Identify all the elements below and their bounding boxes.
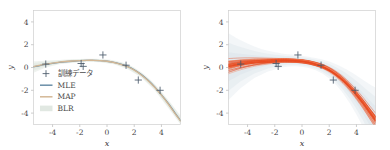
legend-band-swatch-icon — [40, 106, 53, 112]
left-axes: -4-2024420-2-4xy訓練データMLEMAPBLR — [0, 0, 195, 150]
y-tick-label: 2 — [24, 40, 29, 49]
legend-label: MAP — [58, 92, 76, 101]
right-plot-panel: -4-2024420-2-4xy — [195, 0, 390, 150]
y-tick-label: -2 — [21, 86, 29, 95]
y-tick-label: 4 — [219, 18, 224, 27]
y-tick-label: -2 — [216, 86, 224, 95]
y-tick-label: 0 — [24, 63, 29, 72]
y-tick-label: 0 — [219, 63, 224, 72]
x-tick-label: 4 — [354, 128, 359, 137]
legend-label: MLE — [58, 81, 76, 90]
x-tick-label: 2 — [132, 128, 137, 137]
plot-frame — [34, 11, 181, 125]
figure-canvas: -4-2024420-2-4xy訓練データMLEMAPBLR -4-202442… — [0, 0, 390, 150]
y-tick-label: 4 — [24, 18, 29, 27]
left-plot-panel: -4-2024420-2-4xy訓練データMLEMAPBLR — [0, 0, 195, 150]
y-axis-title: y — [6, 65, 15, 71]
x-tick-label: 0 — [105, 128, 110, 137]
legend-label: 訓練データ — [58, 68, 93, 78]
x-tick-label: 4 — [159, 128, 164, 137]
x-tick-label: 2 — [327, 128, 332, 137]
x-tick-label: -4 — [244, 128, 252, 137]
right-axes: -4-2024420-2-4xy — [195, 0, 390, 150]
x-tick-label: 0 — [300, 128, 305, 137]
x-tick-label: -2 — [76, 128, 84, 137]
y-tick-label: 2 — [219, 40, 224, 49]
y-tick-label: -4 — [216, 109, 224, 118]
y-axis-title: y — [201, 65, 210, 71]
y-tick-label: -4 — [21, 109, 29, 118]
x-tick-label: -4 — [49, 128, 57, 137]
x-tick-label: -2 — [271, 128, 279, 137]
legend-label: BLR — [58, 104, 74, 113]
x-axis-title: x — [105, 139, 110, 148]
x-axis-title: x — [300, 139, 305, 148]
